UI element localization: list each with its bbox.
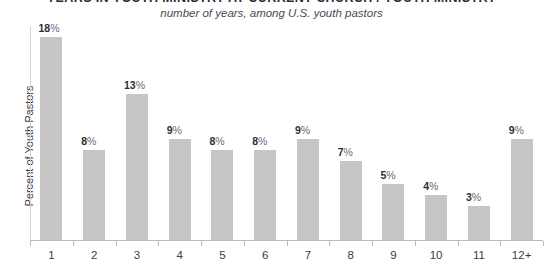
- x-tick-label: 1: [31, 249, 71, 261]
- bar-value-label: 3%: [466, 191, 481, 203]
- tick-mark: [415, 241, 416, 246]
- bar-value-label: 9%: [509, 124, 524, 136]
- bar[interactable]: [382, 184, 404, 240]
- tick-mark: [287, 241, 288, 246]
- bar-value-label: 18%: [38, 22, 59, 34]
- x-axis-ticks: 123456789101112+: [30, 241, 543, 272]
- x-tick-label: 8: [331, 249, 371, 261]
- x-tick-label: 10: [416, 249, 456, 261]
- bar-slot: 8%: [201, 26, 244, 240]
- x-tick-label: 12+: [502, 249, 542, 261]
- bar-value-label: 8%: [209, 135, 224, 147]
- bar-value-label: 5%: [380, 169, 395, 181]
- bar[interactable]: [169, 139, 191, 240]
- x-tick-label: 6: [245, 249, 285, 261]
- tick-mark: [30, 241, 31, 246]
- bar-value-label: 8%: [252, 135, 267, 147]
- x-tick-label: 3: [117, 249, 157, 261]
- tick-mark: [116, 241, 117, 246]
- bar-slot: 5%: [372, 26, 415, 240]
- bar-slot: 8%: [244, 26, 287, 240]
- x-tick-label: 11: [459, 249, 499, 261]
- tick-mark: [244, 241, 245, 246]
- bar[interactable]: [468, 206, 490, 240]
- bar[interactable]: [211, 150, 233, 240]
- bar-slot: 3%: [458, 26, 501, 240]
- bar-value-label: 8%: [81, 135, 96, 147]
- bar-slot: 13%: [116, 26, 159, 240]
- bar-slot: 4%: [415, 26, 458, 240]
- bar-value-label: 4%: [423, 180, 438, 192]
- bar-series: 18%8%13%9%8%8%9%7%5%4%3%9%: [30, 26, 543, 240]
- tick-mark: [73, 241, 74, 246]
- bar[interactable]: [126, 94, 148, 240]
- chart-title: YEARS IN YOUTH MINISTRY AT CURRENT CHURC…: [0, 0, 543, 2]
- bar-value-label: 13%: [124, 79, 145, 91]
- bar-slot: 9%: [287, 26, 330, 240]
- bar-value-label: 7%: [338, 146, 353, 158]
- x-tick-label: 4: [160, 249, 200, 261]
- tick-mark: [158, 241, 159, 246]
- bar-slot: 18%: [30, 26, 73, 240]
- tick-mark: [372, 241, 373, 246]
- bar-slot: 9%: [158, 26, 201, 240]
- plot-area: 18%8%13%9%8%8%9%7%5%4%3%9%: [30, 26, 543, 241]
- tick-mark: [458, 241, 459, 246]
- bar[interactable]: [40, 37, 62, 240]
- bar-value-label: 9%: [167, 124, 182, 136]
- tick-mark: [201, 241, 202, 246]
- bar[interactable]: [83, 150, 105, 240]
- bar[interactable]: [254, 150, 276, 240]
- tick-mark: [329, 241, 330, 246]
- x-tick-label: 5: [202, 249, 242, 261]
- x-tick-label: 9: [373, 249, 413, 261]
- bar[interactable]: [511, 139, 533, 240]
- bar[interactable]: [425, 195, 447, 240]
- bar-value-label: 9%: [295, 124, 310, 136]
- x-tick-label: 7: [288, 249, 328, 261]
- chart-subtitle: number of years, among U.S. youth pastor…: [0, 7, 543, 19]
- bar-slot: 7%: [329, 26, 372, 240]
- tick-mark: [500, 241, 501, 246]
- bar[interactable]: [340, 161, 362, 240]
- bar[interactable]: [297, 139, 319, 240]
- x-tick-label: 2: [74, 249, 114, 261]
- bar-slot: 8%: [73, 26, 116, 240]
- bar-slot: 9%: [500, 26, 543, 240]
